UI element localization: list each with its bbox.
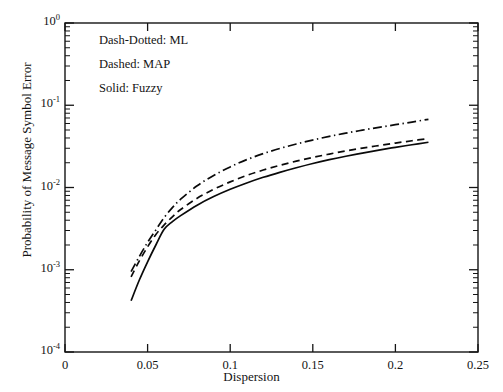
y-tick-label-10e-4: 10-4: [18, 344, 60, 357]
legend-entry-ml: Dash-Dotted: ML: [99, 34, 188, 47]
plot-frame: [65, 23, 478, 352]
figure-canvas: 100 10-1 10-2 10-3 10-4 0 0.05 0.1 0.15 …: [0, 0, 503, 392]
axis-ticks: [65, 23, 478, 352]
x-axis-title: Dispersion: [0, 370, 503, 383]
legend-entry-map: Dashed: MAP: [99, 58, 170, 71]
y-axis-title: Probability of Message Symbol Error: [20, 10, 33, 310]
curve-ml: [131, 119, 428, 271]
chart-plot-area: [0, 0, 503, 392]
legend-entry-fuzzy: Solid: Fuzzy: [99, 82, 163, 95]
curve-fuzzy: [131, 142, 428, 300]
data-curves: [131, 119, 428, 300]
curve-map: [131, 139, 428, 277]
